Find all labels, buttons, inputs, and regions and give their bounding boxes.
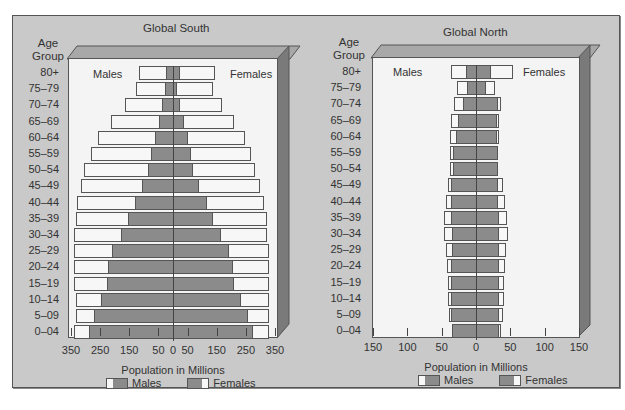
x-tick — [246, 328, 247, 336]
age-label: 55–59 — [19, 147, 59, 159]
legend-females-label: Females — [213, 377, 255, 389]
females-label: Females — [523, 66, 565, 78]
bar-inner — [451, 196, 498, 208]
age-label: 35–39 — [321, 211, 361, 223]
center-axis — [476, 65, 477, 340]
x-tick — [510, 328, 511, 336]
x-tick-label: 50 — [152, 344, 164, 356]
bar-inner — [142, 180, 199, 192]
age-group-header: Age Group — [329, 36, 369, 62]
age-label: 10–14 — [321, 292, 361, 304]
bar-inner — [94, 310, 248, 322]
bar-inner — [463, 98, 498, 110]
bar-inner — [101, 294, 240, 306]
age-label: 60–64 — [321, 130, 361, 142]
bar-inner — [108, 261, 232, 273]
x-tick-label: 50 — [436, 341, 448, 353]
legend-females-swatch — [499, 375, 521, 386]
bar-inner — [466, 66, 491, 78]
x-tick-label: 100 — [535, 341, 553, 353]
age-label: 65–69 — [19, 115, 59, 127]
age-label: 25–29 — [19, 244, 59, 256]
x-tick — [188, 328, 189, 336]
bar-inner — [451, 277, 498, 289]
panel-global-north: Global North Age Group Males Females 80+… — [313, 16, 619, 387]
x-tick — [275, 328, 276, 336]
age-label: 0–04 — [321, 324, 361, 336]
bar-inner — [128, 213, 213, 225]
legend-males-label: Males — [444, 374, 473, 386]
age-label: 15–19 — [321, 276, 361, 288]
x-tick-label: 0 — [473, 341, 479, 353]
x-tick — [373, 328, 374, 336]
bar-inner — [451, 309, 498, 321]
age-label: 0–04 — [19, 325, 59, 337]
age-label: 10–14 — [19, 293, 59, 305]
bar-inner — [121, 229, 220, 241]
age-label: 70–74 — [19, 98, 59, 110]
x-tick-label: 350 — [266, 344, 284, 356]
bar-inner — [451, 293, 498, 305]
age-label: 20–24 — [321, 259, 361, 271]
males-label: Males — [393, 66, 422, 78]
age-label: 20–24 — [19, 260, 59, 272]
bar-inner — [112, 245, 228, 257]
x-tick — [476, 328, 477, 336]
age-label: 40–44 — [19, 196, 59, 208]
box-side-face — [276, 46, 292, 341]
bar-inner — [151, 148, 191, 160]
age-label: 60–64 — [19, 131, 59, 143]
legend-males-label: Males — [132, 377, 161, 389]
x-tick — [173, 328, 174, 336]
bar-inner — [135, 197, 207, 209]
x-tick-label: 250 — [237, 344, 255, 356]
bar-inner — [451, 179, 498, 191]
bar-inner — [162, 99, 180, 111]
age-label: 5–09 — [19, 309, 59, 321]
x-tick-label: 150 — [570, 341, 588, 353]
chart-title: Global North — [443, 26, 508, 38]
age-label: 50–54 — [19, 163, 59, 175]
age-label: 30–34 — [19, 228, 59, 240]
bar-inner — [148, 164, 193, 176]
bar-inner — [89, 326, 252, 338]
age-label: 25–29 — [321, 243, 361, 255]
age-label: 75–79 — [321, 81, 361, 93]
age-label: 45–49 — [19, 179, 59, 191]
legend: Males Females — [106, 377, 256, 389]
age-label: 30–34 — [321, 227, 361, 239]
age-label: 35–39 — [19, 212, 59, 224]
bar-inner — [451, 212, 498, 224]
age-group-header: Age Group — [31, 37, 65, 63]
x-tick-label: 250 — [91, 344, 109, 356]
bar-inner — [165, 83, 177, 95]
bar-inner — [159, 116, 184, 128]
age-label: 65–69 — [321, 114, 361, 126]
legend-males-swatch — [106, 378, 128, 389]
panel-global-south: Global South Age Group Males Females 80+… — [13, 16, 313, 387]
age-label: 55–59 — [321, 146, 361, 158]
age-label: 80+ — [321, 65, 361, 77]
x-tick — [407, 328, 408, 336]
x-tick — [579, 328, 580, 336]
age-label: 45–49 — [321, 178, 361, 190]
x-tick — [442, 328, 443, 336]
x-tick-label: 350 — [62, 344, 80, 356]
x-axis-label: Population in Millions — [121, 364, 224, 376]
age-label: 15–19 — [19, 277, 59, 289]
age-label: 75–79 — [19, 82, 59, 94]
center-axis — [173, 66, 174, 341]
bar-inner — [451, 260, 498, 272]
legend-females-swatch — [187, 378, 209, 389]
age-label: 40–44 — [321, 195, 361, 207]
figure-frame: Global South Age Group Males Females 80+… — [12, 15, 620, 388]
x-tick — [129, 328, 130, 336]
age-label: 80+ — [19, 66, 59, 78]
males-label: Males — [93, 68, 122, 80]
legend-males-swatch — [418, 375, 440, 386]
x-tick-label: 50 — [504, 341, 516, 353]
x-tick — [100, 328, 101, 336]
x-tick-label: 0 — [170, 344, 176, 356]
chart-title: Global South — [143, 22, 210, 34]
age-label: 70–74 — [321, 97, 361, 109]
